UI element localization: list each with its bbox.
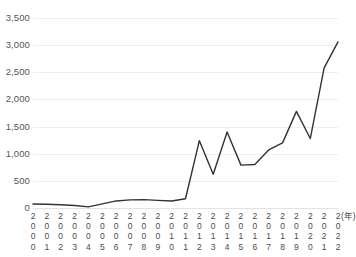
x-axis-tick-label: 2019 bbox=[294, 211, 299, 252]
y-axis-tick-label: 1,000 bbox=[6, 149, 30, 159]
x-axis-labels: 2000200120022003200420052006200720082009… bbox=[33, 211, 338, 257]
x-axis-tick-label: 2006 bbox=[114, 211, 119, 252]
y-axis-tick-label: 0 bbox=[25, 203, 30, 213]
gridline bbox=[33, 208, 338, 209]
x-axis-tick-label: 2003 bbox=[72, 211, 77, 252]
x-axis-unit-label: (年) bbox=[341, 211, 356, 221]
x-axis-tick-label: 2004 bbox=[86, 211, 91, 252]
x-axis-tick-label: 2011 bbox=[183, 211, 188, 252]
x-axis-tick-label: 2015 bbox=[239, 211, 244, 252]
y-axis-tick-label: 2,500 bbox=[6, 68, 30, 78]
x-axis-tick-label: 2008 bbox=[142, 211, 147, 252]
plot-area bbox=[33, 18, 338, 208]
x-axis-tick-label: 2005 bbox=[100, 211, 105, 252]
x-axis-tick-label: 2002 bbox=[58, 211, 63, 252]
y-axis-tick-label: 3,000 bbox=[6, 40, 30, 50]
x-axis-tick-label: 2000 bbox=[31, 211, 36, 252]
x-axis-tick-label: 2013 bbox=[211, 211, 216, 252]
x-axis-tick-label: 2009 bbox=[155, 211, 160, 252]
y-axis-tick-label: 2,000 bbox=[6, 95, 30, 105]
x-axis-tick-label: 2012 bbox=[197, 211, 202, 252]
y-axis-tick-label: 1,500 bbox=[6, 122, 30, 132]
y-axis-tick-label: 500 bbox=[14, 176, 30, 186]
x-axis-tick-label: 2022 bbox=[336, 211, 341, 252]
x-axis-tick-label: 2014 bbox=[225, 211, 230, 252]
y-axis-tick-label: 3,500 bbox=[6, 13, 30, 23]
x-axis-tick-label: 2016 bbox=[252, 211, 257, 252]
x-axis-tick-label: 2018 bbox=[280, 211, 285, 252]
x-axis-tick-label: 2017 bbox=[266, 211, 271, 252]
line-chart: 05001,0001,5002,0002,5003,0003,500 20002… bbox=[0, 0, 356, 257]
series-line bbox=[33, 18, 338, 208]
x-axis-tick-label: 2020 bbox=[308, 211, 313, 252]
x-axis-tick-label: 2007 bbox=[128, 211, 133, 252]
x-axis-tick-label: 2010 bbox=[169, 211, 174, 252]
x-axis-tick-label: 2001 bbox=[44, 211, 49, 252]
y-axis-labels: 05001,0001,5002,0002,5003,0003,500 bbox=[0, 18, 30, 208]
x-axis-tick-label: 2021 bbox=[322, 211, 327, 252]
